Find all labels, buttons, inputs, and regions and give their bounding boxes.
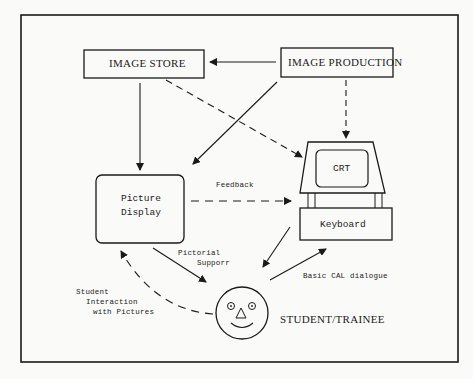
basic-cal-label: Basic CAL dialogue [303, 272, 388, 280]
student-interaction-label-3: with Pictures [93, 308, 154, 316]
pictorial-label-2: Supporr [197, 259, 230, 267]
student-face-icon [216, 287, 268, 339]
crt-label: CRT [333, 163, 350, 174]
student-interaction-label-2: Interaction [86, 298, 138, 306]
picture-display-label-2: Display [121, 207, 161, 218]
picture-display-label-1: Picture [121, 193, 161, 204]
image-store-label: IMAGE STORE [109, 57, 186, 69]
arrow-keyboard-to-student [263, 227, 290, 267]
pictorial-label-1: Pictorial [178, 249, 220, 257]
image-production-label: IMAGE PRODUCTION [288, 56, 403, 68]
feedback-label: Feedback [216, 181, 254, 189]
arrow-production-to-display [193, 82, 277, 164]
student-interaction-label-1: Student [76, 288, 109, 296]
student-trainee-label: STUDENT/TRAINEE [280, 313, 385, 325]
arrow-store-to-crt [166, 80, 302, 157]
keyboard-label: Keyboard [320, 219, 366, 230]
